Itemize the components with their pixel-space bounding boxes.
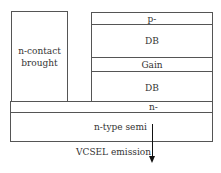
- n-contact-label-line1: n-contact: [12, 45, 67, 57]
- p-minus-layer: p-: [92, 13, 212, 25]
- n-contact-block: n-contact brought: [11, 11, 68, 102]
- n-type-substrate: n-type semi: [10, 112, 213, 142]
- gain-label: Gain: [141, 60, 162, 70]
- bottom-dbr-layer: DB: [92, 72, 212, 103]
- n-type-substrate-label: n-type semi: [94, 121, 147, 133]
- emission-arrow-shaft: [152, 124, 153, 157]
- n-contact-label: n-contact brought: [12, 45, 67, 69]
- top-dbr-layer: DB: [92, 25, 212, 58]
- bottom-dbr-label: DB: [145, 83, 159, 93]
- gain-layer: Gain: [92, 58, 212, 72]
- n-contact-label-line2: brought: [12, 57, 67, 69]
- p-minus-label: p-: [148, 14, 157, 24]
- vcsel-layer-stack: p- DB Gain DB: [91, 12, 213, 103]
- vcsel-emission-label: VCSEL emission: [76, 146, 151, 158]
- top-dbr-label: DB: [145, 36, 159, 46]
